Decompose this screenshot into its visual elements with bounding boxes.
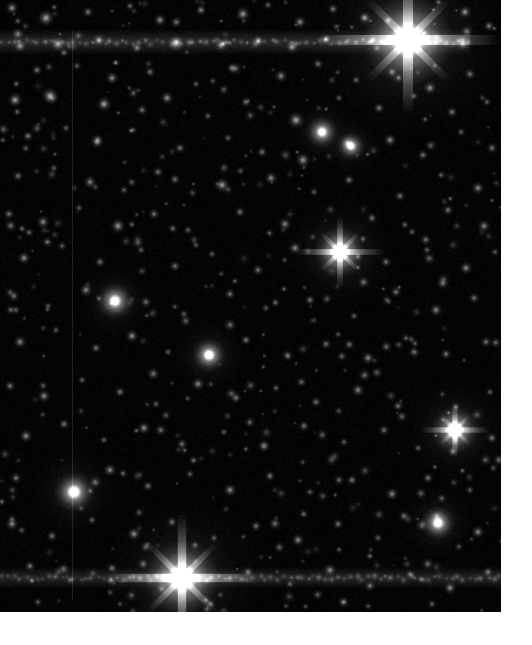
astronomical-image-panel[interactable] [0, 0, 501, 612]
page-margin-right [501, 0, 532, 645]
image-viewer-root [0, 0, 532, 645]
page-margin-bottom [0, 612, 532, 645]
star-field-canvas[interactable] [0, 0, 501, 612]
